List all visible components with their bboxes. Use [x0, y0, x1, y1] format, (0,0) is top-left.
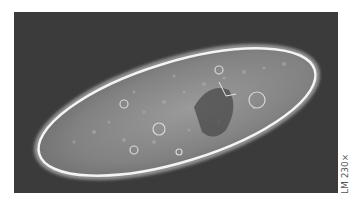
magnification-label: LM 230×: [340, 154, 352, 194]
paramecium-illustration: [14, 12, 338, 193]
micrograph-image: [14, 12, 338, 193]
